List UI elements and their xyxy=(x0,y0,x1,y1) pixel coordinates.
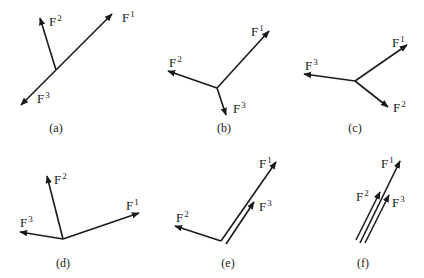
panel-d: F1F2F3(d) xyxy=(20,171,139,270)
force-label: F1 xyxy=(259,155,272,171)
force-label: F3 xyxy=(259,198,272,214)
panel-b: F1F2F3(b) xyxy=(168,23,269,135)
force-label: F1 xyxy=(251,23,264,39)
panel-c: F1F2F3(c) xyxy=(304,34,407,135)
force-vector-arrow-icon xyxy=(355,45,407,81)
force-superscript-index: 2 xyxy=(62,171,67,181)
force-superscript-index: 3 xyxy=(241,100,246,110)
force-vector-arrow-icon xyxy=(217,31,269,88)
force-superscript-index: 3 xyxy=(313,57,318,67)
force-label: F1 xyxy=(122,9,135,25)
force-vector-arrow-icon xyxy=(20,232,63,239)
panel-caption: (a) xyxy=(49,121,62,135)
force-superscript-index: 1 xyxy=(134,197,139,207)
panel-f: F1F2F3(f) xyxy=(356,155,405,270)
force-superscript-index: 1 xyxy=(267,155,272,165)
force-superscript-index: 3 xyxy=(400,194,405,204)
force-label: F1 xyxy=(381,155,394,171)
panel-e: F1F2F3(e) xyxy=(175,155,276,270)
force-label: F3 xyxy=(20,214,33,230)
panel-caption: (c) xyxy=(348,121,361,135)
force-label: F3 xyxy=(233,100,246,116)
force-superscript-index: 1 xyxy=(389,155,394,165)
force-label: F2 xyxy=(393,99,406,115)
force-superscript-index: 2 xyxy=(364,188,369,198)
force-vector-arrow-icon xyxy=(217,88,226,115)
force-superscript-index: 3 xyxy=(28,214,33,224)
force-label: F2 xyxy=(49,13,62,29)
panel-caption: (e) xyxy=(221,256,234,270)
force-superscript-index: 1 xyxy=(259,23,264,33)
force-superscript-index: 3 xyxy=(267,198,272,208)
force-superscript-index: 1 xyxy=(130,9,135,19)
force-superscript-index: 2 xyxy=(184,209,189,219)
force-vector-arrow-icon xyxy=(355,81,388,107)
force-label: F2 xyxy=(356,188,369,204)
force-vector-arrow-icon xyxy=(175,226,221,241)
force-label: F2 xyxy=(176,209,189,225)
force-label: F3 xyxy=(392,194,405,210)
force-label: F3 xyxy=(305,57,318,73)
force-vector-arrow-icon xyxy=(168,71,217,88)
force-label: F1 xyxy=(126,197,139,213)
force-superscript-index: 2 xyxy=(57,13,62,23)
force-superscript-index: 2 xyxy=(177,54,182,64)
force-superscript-index: 3 xyxy=(45,90,50,100)
panel-a: F1F2F3(a) xyxy=(21,9,135,135)
panel-caption: (b) xyxy=(217,121,231,135)
panel-caption: (d) xyxy=(56,256,70,270)
force-label: F2 xyxy=(169,54,182,70)
force-vector-arrow-icon xyxy=(63,213,139,239)
force-vector-arrow-icon xyxy=(304,74,355,81)
force-superscript-index: 2 xyxy=(401,99,406,109)
force-diagrams-figure: F1F2F3(a)F1F2F3(b)F1F2F3(c)F1F2F3(d)F1F2… xyxy=(0,0,424,278)
panel-caption: (f) xyxy=(357,256,369,270)
force-superscript-index: 1 xyxy=(400,34,405,44)
force-vector-arrow-icon xyxy=(226,202,254,244)
force-vector-arrow-icon xyxy=(56,14,112,70)
force-vector-arrow-icon xyxy=(365,195,389,243)
force-label: F3 xyxy=(37,90,50,106)
force-label: F2 xyxy=(54,171,67,187)
